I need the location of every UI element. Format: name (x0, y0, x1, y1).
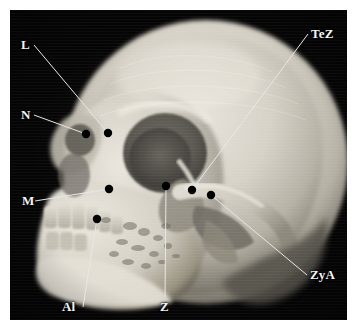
landmark-label-z: Z (160, 300, 169, 313)
landmark-marker-z (162, 182, 170, 190)
landmark-label-m: M (22, 194, 34, 207)
leader-line-al (83, 219, 97, 307)
landmark-label-n: N (21, 108, 31, 121)
leader-line-tez (192, 34, 308, 190)
annotation-layer (0, 0, 354, 333)
leader-line-l (34, 45, 108, 133)
landmark-label-zya: ZyA (310, 268, 335, 281)
landmark-marker-l (104, 129, 112, 137)
landmark-marker-al (93, 215, 101, 223)
landmark-label-l: L (21, 38, 30, 51)
leader-line-zya (211, 195, 307, 275)
leader-line-z (165, 186, 166, 297)
landmark-marker-zya (207, 191, 215, 199)
leader-line-n (34, 115, 86, 134)
landmark-marker-n (82, 130, 90, 138)
landmark-marker-tez (188, 186, 196, 194)
figure-panel: LNMAlZTeZZyA (0, 0, 354, 333)
leader-line-m (35, 189, 109, 201)
landmark-marker-m (105, 185, 113, 193)
landmark-label-al: Al (62, 300, 75, 313)
landmark-label-tez: TeZ (311, 27, 334, 40)
